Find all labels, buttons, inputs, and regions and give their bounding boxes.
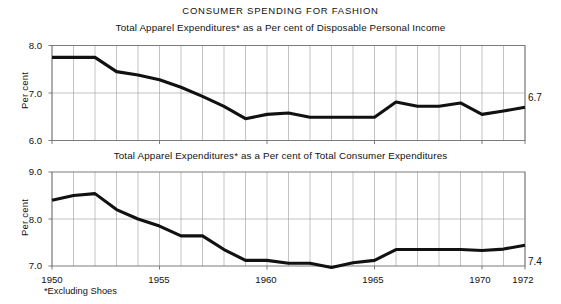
y-tick-bottom-7: 7.0 — [14, 260, 42, 271]
end-label-top: 6.7 — [528, 92, 542, 103]
y-tick-top-7: 7.0 — [14, 88, 42, 99]
gridlines-bottom — [52, 172, 525, 266]
x-tick-1950: 1950 — [32, 274, 72, 285]
x-tick-1965: 1965 — [353, 274, 393, 285]
y-tick-bottom-9: 9.0 — [14, 166, 42, 177]
axis-frame-top — [49, 46, 526, 145]
chart-subtitle-bottom: Total Apparel Expenditures* as a Per cen… — [0, 150, 561, 161]
chart-subtitle-top: Total Apparel Expenditures* as a Per cen… — [0, 22, 561, 33]
chart-figure: CONSUMER SPENDING FOR FASHION Total Appa… — [0, 0, 561, 304]
gridlines-top — [52, 46, 525, 141]
x-tick-1955: 1955 — [139, 274, 179, 285]
y-tick-top-6: 6.0 — [14, 135, 42, 146]
end-label-bottom: 7.4 — [528, 256, 542, 267]
y-tick-top-8: 8.0 — [14, 40, 42, 51]
chart-footnote: *Excluding Shoes — [44, 286, 117, 296]
axis-frame-bottom — [49, 172, 526, 270]
x-tick-1970: 1970 — [460, 274, 500, 285]
x-tick-1960: 1960 — [246, 274, 286, 285]
x-tick-1972: 1972 — [503, 274, 543, 285]
y-tick-bottom-8: 8.0 — [14, 214, 42, 225]
chart-main-title: CONSUMER SPENDING FOR FASHION — [0, 5, 561, 16]
